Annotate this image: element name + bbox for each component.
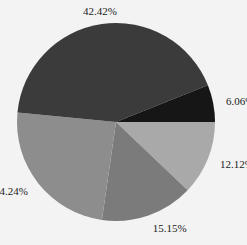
slice-label: 12.12% [220,158,247,170]
slice-label: 15.15% [153,222,187,234]
pie-chart: 12.12%15.15%24.24%42.42%6.06% [0,0,247,245]
slice-label: 42.42% [83,5,117,17]
slice-label: 6.06% [226,95,247,107]
slice-label: 24.24% [0,185,28,197]
pie-slice [17,113,116,220]
